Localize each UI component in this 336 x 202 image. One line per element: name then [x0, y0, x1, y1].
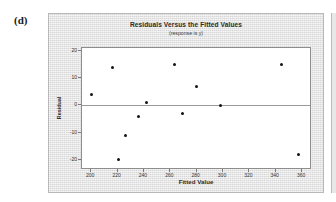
- data-point: [195, 85, 198, 88]
- y-axis-tick-label: -10: [70, 129, 77, 135]
- data-point: [137, 115, 140, 118]
- panel-label: (d): [14, 14, 27, 26]
- adjacent-panel-edge: [331, 13, 336, 193]
- data-point: [145, 101, 148, 104]
- y-axis-tick: [78, 50, 81, 51]
- y-axis-tick-label: 10: [71, 74, 77, 80]
- data-point: [181, 112, 184, 115]
- plot-area: [81, 47, 311, 169]
- data-point: [117, 158, 120, 161]
- data-point: [124, 134, 127, 137]
- y-axis-tick: [78, 104, 81, 105]
- data-point: [297, 153, 300, 156]
- zero-reference-line: [82, 105, 310, 106]
- y-axis-tick: [78, 77, 81, 78]
- y-axis-tick: [78, 159, 81, 160]
- chart-title: Residuals Versus the Fitted Values: [49, 21, 323, 28]
- data-point: [111, 66, 114, 69]
- y-axis-tick-label: 20: [71, 47, 77, 53]
- y-axis-tick-label: 0: [74, 101, 77, 107]
- data-point: [219, 104, 222, 107]
- y-axis: 20100-10-20: [61, 47, 81, 169]
- chart-subtitle: (response is y): [49, 30, 323, 36]
- chart-card: Residuals Versus the Fitted Values (resp…: [48, 13, 324, 193]
- y-axis-tick: [78, 132, 81, 133]
- x-axis-title: Fitted Value: [81, 178, 311, 185]
- data-point: [280, 63, 283, 66]
- y-axis-tick-label: -20: [70, 156, 77, 162]
- data-point: [90, 93, 93, 96]
- data-point: [173, 63, 176, 66]
